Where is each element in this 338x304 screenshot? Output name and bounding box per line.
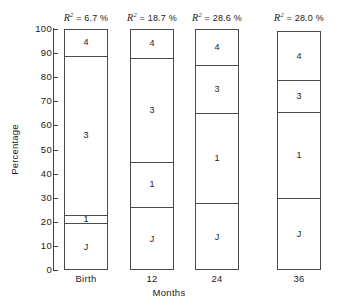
bar-segment-label: 3 [214, 85, 219, 94]
y-axis-tick-label: 20 [22, 217, 52, 227]
r-squared-annotation: R2 = 6.7 % [64, 10, 109, 23]
r-squared-annotation: R2 = 28.6 % [192, 10, 242, 23]
bar-panel-24: R2 = 28.6 %431J24 [195, 0, 239, 304]
stacked-bar[interactable]: 431J [195, 29, 239, 270]
bar-segment-label: 1 [296, 151, 301, 160]
bar-segment-3[interactable]: 3 [65, 57, 107, 216]
bar-segment-label: 4 [214, 43, 219, 52]
bar-segment-3[interactable]: 3 [278, 81, 320, 114]
x-axis-tick-label: 36 [293, 274, 304, 284]
y-axis-tick-label: 90 [22, 48, 52, 58]
bar-segment-label: 4 [83, 38, 88, 47]
stacked-bar[interactable]: 431J [130, 29, 174, 270]
bar-segment-1[interactable]: 1 [278, 113, 320, 199]
bar-segment-1[interactable]: 1 [196, 114, 238, 203]
y-axis-tick [53, 101, 58, 102]
bar-segment-j[interactable]: J [196, 204, 238, 271]
y-axis-tick-label: 0 [22, 265, 52, 275]
x-axis-tick-label: 24 [211, 274, 222, 284]
bar-panel-birth: R2 = 6.7 %431JBirth [64, 0, 108, 304]
y-axis-tick [53, 77, 58, 78]
y-axis-tick [53, 270, 58, 271]
bar-segment-4[interactable]: 4 [278, 32, 320, 80]
y-axis-tick-label: 70 [22, 96, 52, 106]
y-axis-tick-label: 10 [22, 241, 52, 251]
bar-panel-12: R2 = 18.7 %431J12 [130, 0, 174, 304]
y-axis-tick [53, 150, 58, 151]
bar-segment-label: 1 [149, 180, 154, 189]
y-axis-tick [53, 198, 58, 199]
bar-segment-label: 3 [149, 106, 154, 115]
y-axis-tick-label: 80 [22, 72, 52, 82]
stacked-bar-chart: Percentage 0102030405060708090100 R2 = 6… [0, 0, 338, 304]
bar-segment-3[interactable]: 3 [131, 59, 173, 163]
x-axis-title: Months [0, 288, 338, 298]
bar-segment-label: 3 [83, 131, 88, 140]
bar-segment-1[interactable]: 1 [131, 163, 173, 209]
x-axis-tick-label: 12 [146, 274, 157, 284]
stacked-bar[interactable]: 431J [277, 31, 321, 270]
bar-segment-label: J [215, 233, 220, 242]
y-axis-tick [53, 174, 58, 175]
bar-segment-label: 3 [296, 92, 301, 101]
y-axis-tick [53, 222, 58, 223]
bar-segment-label: 4 [149, 39, 154, 48]
y-axis-tick-label: 30 [22, 193, 52, 203]
bar-segment-label: J [150, 235, 155, 244]
bar-segment-4[interactable]: 4 [65, 30, 107, 57]
y-axis-tick-label: 40 [22, 169, 52, 179]
bar-segment-label: J [84, 243, 89, 252]
bar-segment-label: J [297, 230, 302, 239]
r-squared-annotation: R2 = 18.7 % [127, 10, 177, 23]
bar-segment-j[interactable]: J [65, 224, 107, 271]
stacked-bar[interactable]: 431J [64, 29, 108, 270]
bar-segment-label: 1 [83, 216, 88, 224]
y-axis-tick [53, 29, 58, 30]
bar-segment-label: 4 [296, 52, 301, 61]
x-axis-tick-label: Birth [75, 274, 96, 284]
y-axis-tick [53, 125, 58, 126]
y-axis-title: Percentage [8, 29, 22, 270]
r-squared-annotation: R2 = 28.0 % [274, 10, 324, 23]
bar-segment-3[interactable]: 3 [196, 66, 238, 114]
y-axis-tick [53, 246, 58, 247]
bar-panel-36: R2 = 28.0 %431J36 [277, 0, 321, 304]
bar-segment-label: 1 [214, 154, 219, 163]
y-axis-tick-label: 60 [22, 120, 52, 130]
bar-segment-4[interactable]: 4 [131, 30, 173, 59]
bar-segment-j[interactable]: J [131, 208, 173, 271]
bar-segment-1[interactable]: 1 [65, 216, 107, 224]
y-axis-tick [53, 53, 58, 54]
y-axis-tick-label: 100 [22, 24, 52, 34]
bar-segment-j[interactable]: J [278, 199, 320, 271]
y-axis-tick-label: 50 [22, 145, 52, 155]
bar-segment-4[interactable]: 4 [196, 30, 238, 66]
